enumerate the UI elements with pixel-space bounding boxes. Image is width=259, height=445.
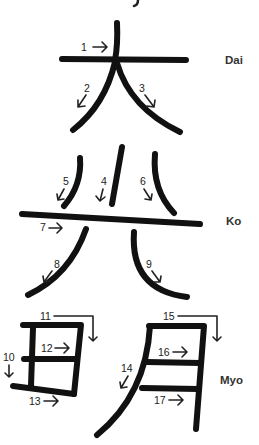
stroke-number-7: 7 — [40, 221, 46, 233]
arrow-down-right-icon — [152, 271, 161, 282]
kanji-myo: 10 11 12 13 14 15 16 17 Myo — [3, 310, 243, 435]
kanji-ko: 4 5 6 7 8 9 Ko — [22, 147, 241, 297]
arrow-right-icon — [169, 395, 183, 405]
stroke-4 — [112, 147, 122, 204]
arrow-right-icon — [93, 42, 107, 52]
stroke-14 — [97, 326, 150, 435]
stroke-number-5: 5 — [63, 175, 69, 187]
reading-label-dai: Dai — [225, 54, 243, 66]
arrow-down-left-icon — [78, 95, 86, 107]
arrow-down-icon — [5, 365, 13, 377]
stroke-number-10: 10 — [3, 351, 15, 363]
stroke-number-2: 2 — [84, 82, 90, 94]
stroke-number-4: 4 — [101, 175, 107, 187]
stroke-number-1: 1 — [81, 41, 87, 53]
stroke-number-11: 11 — [40, 310, 51, 322]
stroke-number-8: 8 — [54, 258, 60, 270]
stroke-number-12: 12 — [41, 342, 53, 354]
arrow-right-icon — [55, 343, 69, 353]
stroke-2 — [73, 62, 115, 130]
stroke-order-diagram: 1 2 3 Dai 4 5 6 7 8 9 Ko 10 — [0, 0, 259, 445]
stroke-6 — [155, 154, 174, 213]
stroke-number-3: 3 — [139, 82, 145, 94]
stroke-3 — [117, 63, 180, 132]
reading-label-ko: Ko — [226, 215, 241, 227]
stroke-15 — [149, 326, 204, 429]
arrow-down-right-icon — [144, 189, 152, 200]
stroke-number-6: 6 — [140, 175, 146, 187]
stroke-dai-vertical — [115, 23, 117, 60]
stroke-13 — [13, 386, 74, 394]
arrow-right-icon — [49, 223, 62, 233]
arrow-down-left-icon — [57, 189, 64, 200]
arrow-down-left-icon — [120, 376, 128, 388]
stroke-number-9: 9 — [146, 258, 152, 270]
stroke-number-15: 15 — [163, 310, 175, 322]
stroke-number-17: 17 — [154, 394, 166, 406]
stroke-number-16: 16 — [158, 346, 170, 358]
stroke-16 — [147, 362, 200, 363]
cropped-title-fragment — [134, 0, 138, 6]
arrow-down-icon — [96, 189, 105, 201]
stroke-number-13: 13 — [29, 395, 41, 407]
arrow-right-icon — [173, 347, 187, 357]
arrow-right-icon — [44, 396, 58, 406]
stroke-1 — [62, 59, 186, 60]
arrow-bent-down-icon — [54, 316, 97, 341]
stroke-9 — [134, 232, 187, 297]
stroke-number-14: 14 — [121, 362, 133, 374]
reading-label-myo: Myo — [220, 374, 243, 386]
kanji-dai: 1 2 3 Dai — [62, 23, 243, 132]
stroke-17 — [142, 388, 198, 389]
arrow-down-right-icon — [145, 95, 155, 107]
